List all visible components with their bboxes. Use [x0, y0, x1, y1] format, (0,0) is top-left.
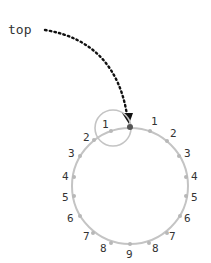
svg-text:6: 6 [184, 212, 191, 225]
svg-text:8: 8 [152, 242, 159, 255]
small-circle-label: 1 [102, 118, 109, 131]
circle-diagram: top 1 2 3 4 5 6 7 8 9 1 2 3 4 5 6 7 8 [0, 0, 211, 263]
dotted-arrow [45, 30, 127, 115]
svg-text:2: 2 [170, 127, 177, 140]
top-point [127, 124, 133, 130]
big-circle [72, 128, 188, 244]
svg-text:8: 8 [100, 242, 107, 255]
svg-text:2: 2 [83, 131, 90, 144]
svg-text:5: 5 [62, 191, 69, 204]
svg-text:4: 4 [191, 170, 198, 183]
svg-text:6: 6 [67, 212, 74, 225]
svg-text:4: 4 [62, 170, 69, 183]
svg-text:3: 3 [184, 147, 191, 160]
svg-text:7: 7 [169, 230, 176, 243]
svg-text:3: 3 [68, 147, 75, 160]
svg-text:1: 1 [151, 115, 158, 128]
svg-text:7: 7 [83, 230, 90, 243]
bottom-label: 9 [126, 248, 133, 261]
top-label: top [8, 22, 32, 37]
svg-text:5: 5 [191, 191, 198, 204]
